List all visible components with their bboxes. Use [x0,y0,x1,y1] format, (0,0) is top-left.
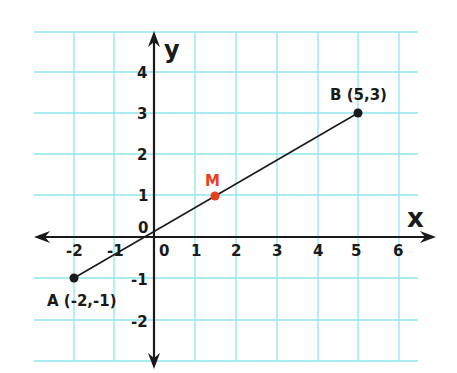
x-tick: 5 [351,242,361,260]
point-a-label: A (-2,-1) [47,292,117,310]
x-tick: 4 [313,242,323,260]
y-axis-label: y [164,36,180,64]
x-axis-label: x [407,203,424,233]
x-tick: 0 [159,242,169,260]
point-m [211,192,220,201]
coordinate-plane: y x A (-2,-1) B (5,3) M -2 -1 0 1 2 3 4 … [0,0,457,373]
y-tick: 3 [137,105,147,123]
y-tick-labels: 4 3 2 1 0 -1 -2 [131,64,148,331]
origin-zero-label: 0 [138,219,148,237]
y-tick: 2 [137,146,147,164]
y-tick: -1 [131,271,148,289]
point-b-label: B (5,3) [330,86,387,104]
point-a [70,274,79,283]
x-tick: 3 [272,242,282,260]
grid [34,32,418,361]
point-b [354,109,363,118]
x-tick: 2 [231,242,241,260]
x-tick: -2 [66,242,83,260]
x-tick-labels: -2 -1 0 1 2 3 4 5 6 [66,242,403,260]
x-tick: 1 [191,242,201,260]
x-tick: -1 [107,242,124,260]
y-tick: 1 [138,187,148,205]
x-tick: 6 [393,242,403,260]
y-tick: 4 [137,64,147,82]
y-tick: -2 [131,313,148,331]
axes [34,31,436,369]
point-m-label: M [205,172,220,190]
